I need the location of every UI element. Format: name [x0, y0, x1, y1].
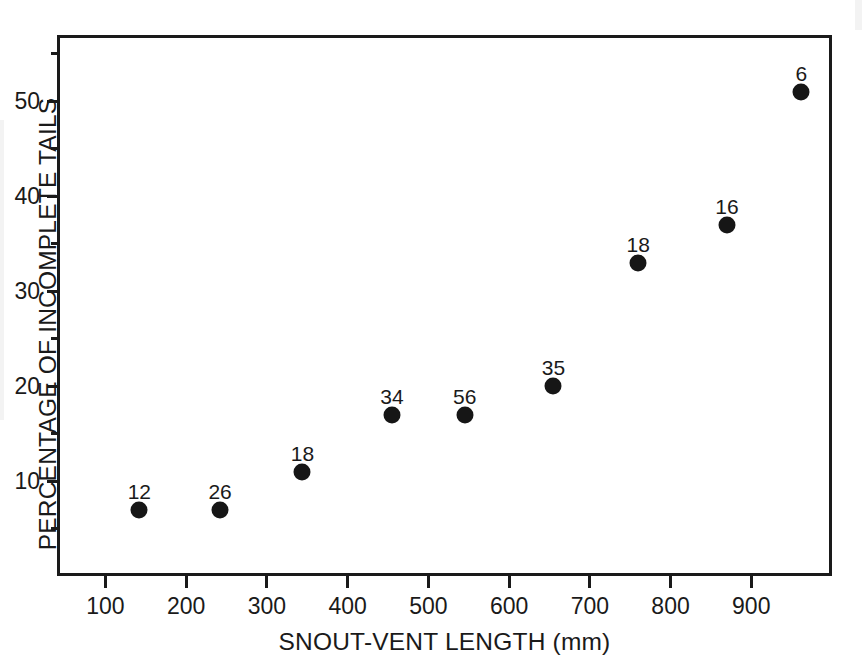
data-point-sample-size-label: 16	[715, 194, 738, 218]
x-axis-tick-major	[750, 576, 753, 588]
x-axis-tick-label: 900	[732, 593, 770, 620]
data-point-marker	[212, 501, 229, 518]
x-axis: SNOUT-VENT LENGTH (mm) 10020030040050060…	[57, 576, 832, 666]
data-point-marker	[294, 463, 311, 480]
x-axis-tick-label: 800	[651, 593, 689, 620]
x-axis-tick-label: 200	[167, 593, 205, 620]
data-point-sample-size-label: 26	[208, 479, 231, 503]
y-axis-tick-label: 10	[14, 468, 40, 495]
data-point: 16	[719, 216, 736, 233]
data-point: 12	[131, 501, 148, 518]
data-point: 56	[456, 406, 473, 423]
data-point: 18	[294, 463, 311, 480]
x-axis-tick-label: 300	[248, 593, 286, 620]
x-axis-title: SNOUT-VENT LENGTH (mm)	[57, 628, 832, 656]
data-point-sample-size-label: 18	[291, 441, 314, 465]
x-axis-tick-label: 500	[409, 593, 447, 620]
x-axis-tick-major	[588, 576, 591, 588]
data-point-marker	[793, 83, 810, 100]
x-axis-tick-label: 700	[571, 593, 609, 620]
data-point-sample-size-label: 34	[380, 384, 403, 408]
x-axis-tick-label: 100	[86, 593, 124, 620]
data-point: 34	[384, 406, 401, 423]
y-axis: PERCENTAGE OF INCOMPLETE TAILS 102030405…	[0, 35, 60, 576]
x-axis-tick-label: 400	[328, 593, 366, 620]
scan-edge-artifact-right	[855, 0, 862, 30]
x-axis-tick-major	[427, 576, 430, 588]
data-point: 26	[212, 501, 229, 518]
x-axis-tick-major	[508, 576, 511, 588]
data-point: 6	[793, 83, 810, 100]
data-point: 35	[545, 378, 562, 395]
data-point-marker	[719, 216, 736, 233]
y-axis-tick-label: 30	[14, 278, 40, 305]
data-point-sample-size-label: 6	[795, 61, 807, 85]
y-axis-tick-label: 20	[14, 373, 40, 400]
y-axis-tick-label: 50	[14, 88, 40, 115]
x-axis-tick-major	[265, 576, 268, 588]
data-point-marker	[630, 254, 647, 271]
data-points-layer: 12261834563518166	[57, 35, 832, 576]
data-point-sample-size-label: 35	[542, 356, 565, 380]
data-point: 18	[630, 254, 647, 271]
data-point-sample-size-label: 12	[128, 479, 151, 503]
y-axis-tick-label: 40	[14, 183, 40, 210]
chart-page: PERCENTAGE OF INCOMPLETE TAILS 102030405…	[0, 0, 862, 666]
x-axis-tick-major	[185, 576, 188, 588]
x-axis-tick-major	[104, 576, 107, 588]
data-point-sample-size-label: 56	[453, 384, 476, 408]
data-point-sample-size-label: 18	[627, 232, 650, 256]
x-axis-tick-major	[669, 576, 672, 588]
x-axis-tick-label: 600	[490, 593, 528, 620]
data-point-marker	[545, 378, 562, 395]
data-point-marker	[384, 406, 401, 423]
data-point-marker	[456, 406, 473, 423]
x-axis-tick-major	[346, 576, 349, 588]
data-point-marker	[131, 501, 148, 518]
